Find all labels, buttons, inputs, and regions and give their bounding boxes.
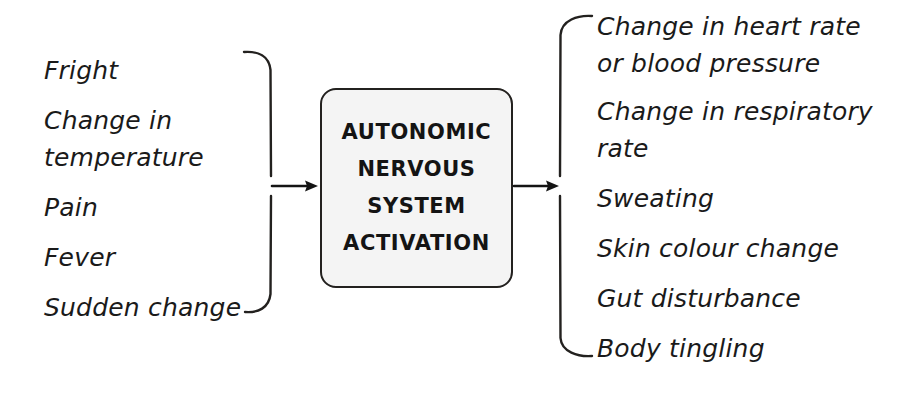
trigger-item-fright: Fright (44, 52, 118, 89)
process-line-nervous: NERVOUS (357, 151, 475, 188)
diagram-canvas: Fright Change in temperature Pain Fever … (0, 0, 906, 401)
response-item-heart-rate-line1: Change in heart rate (597, 8, 861, 45)
output-arrow-icon (514, 181, 559, 192)
autonomic-nervous-system-activation-box: AUTONOMIC NERVOUS SYSTEM ACTIVATION (320, 88, 513, 288)
responses-bracket-bottom (560, 196, 592, 356)
process-line-autonomic: AUTONOMIC (342, 114, 492, 151)
response-item-respiratory-rate-line1: Change in respiratory (597, 93, 873, 130)
response-item-sweating: Sweating (597, 180, 714, 217)
response-item-heart-rate-line2: or blood pressure (597, 45, 820, 82)
responses-bracket-top (560, 16, 592, 176)
trigger-item-temperature-line2: temperature (44, 139, 204, 176)
response-item-respiratory-rate-line2: rate (597, 130, 649, 167)
response-item-gut-disturbance: Gut disturbance (597, 280, 801, 317)
input-arrow-icon (272, 181, 318, 192)
response-item-skin-colour-change: Skin colour change (597, 230, 839, 267)
trigger-item-sudden-change: Sudden change (44, 289, 241, 326)
process-line-activation: ACTIVATION (343, 225, 490, 262)
trigger-item-temperature-line1: Change in (44, 102, 172, 139)
process-line-system: SYSTEM (367, 188, 466, 225)
trigger-item-fever: Fever (44, 239, 115, 276)
trigger-item-pain: Pain (44, 189, 98, 226)
response-item-body-tingling: Body tingling (597, 330, 765, 367)
triggers-bracket-top (244, 52, 271, 176)
triggers-bracket-bottom (245, 196, 271, 312)
